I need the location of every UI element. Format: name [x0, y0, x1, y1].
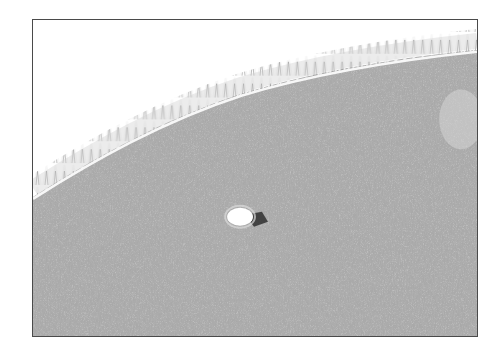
fabric-photo	[32, 19, 478, 337]
hole-opening	[227, 208, 253, 226]
fabric-photo-graphic	[33, 20, 477, 336]
figure-canvas	[0, 0, 499, 362]
